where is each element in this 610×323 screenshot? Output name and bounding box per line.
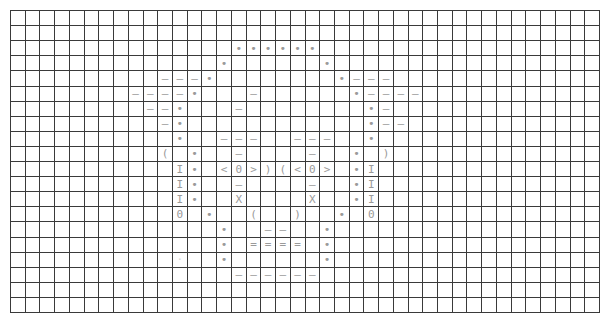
grid-cell [555, 161, 570, 176]
grid-cell [437, 40, 452, 55]
grid-cell [408, 10, 423, 25]
grid-glyph: — [231, 176, 246, 191]
grid-cell [378, 297, 393, 312]
grid-glyph: • [349, 176, 364, 191]
grid-glyph: · [172, 252, 187, 267]
grid-cell [246, 282, 261, 297]
grid-glyph: — [246, 86, 261, 101]
grid-cell [84, 237, 99, 252]
grid-cell [525, 237, 540, 252]
grid-cell [113, 86, 128, 101]
grid-cell [378, 221, 393, 236]
grid-cell [305, 10, 320, 25]
grid-cell [452, 176, 467, 191]
grid-cell [393, 191, 408, 206]
grid-cell [363, 237, 378, 252]
grid-cell [540, 252, 555, 267]
grid-cell [39, 101, 54, 116]
grid-cell [540, 282, 555, 297]
grid-cell [98, 55, 113, 70]
grid-cell [570, 237, 585, 252]
grid-cell [275, 55, 290, 70]
grid-cell [378, 282, 393, 297]
grid-cell [39, 221, 54, 236]
grid-cell [422, 252, 437, 267]
grid-cell [496, 252, 511, 267]
grid-cell [246, 70, 261, 85]
grid-cell [334, 10, 349, 25]
grid-cell [98, 10, 113, 25]
grid-cell [290, 221, 305, 236]
grid-cell [437, 297, 452, 312]
grid-cell [290, 10, 305, 25]
grid-glyph: — [378, 116, 393, 131]
grid-cell [157, 10, 172, 25]
grid-glyph: — [275, 267, 290, 282]
grid-cell [349, 101, 364, 116]
grid-cell [113, 252, 128, 267]
grid-cell [466, 252, 481, 267]
grid-glyph: ( [275, 161, 290, 176]
grid-cell [511, 131, 526, 146]
grid-cell [98, 191, 113, 206]
grid-cell [275, 10, 290, 25]
grid-cell [231, 206, 246, 221]
grid-cell [54, 70, 69, 85]
grid-cell [290, 252, 305, 267]
grid-cell [496, 25, 511, 40]
grid-cell [378, 191, 393, 206]
grid-cell [466, 55, 481, 70]
grid-cell [319, 25, 334, 40]
grid-cell [54, 161, 69, 176]
grid-cell [511, 252, 526, 267]
grid-cell [422, 282, 437, 297]
grid-cell [422, 116, 437, 131]
grid-cell [113, 116, 128, 131]
grid-cell [10, 116, 25, 131]
grid-cell [437, 252, 452, 267]
grid-cell [275, 101, 290, 116]
grid-cell [201, 10, 216, 25]
grid-cell [540, 176, 555, 191]
grid-cell [584, 161, 599, 176]
grid-cell [98, 221, 113, 236]
grid-glyph: > [246, 161, 261, 176]
grid-cell [39, 70, 54, 85]
grid-cell [378, 267, 393, 282]
grid-cell [113, 206, 128, 221]
grid-cell [275, 191, 290, 206]
grid-cell [437, 101, 452, 116]
grid-cell [466, 101, 481, 116]
grid-cell [481, 131, 496, 146]
grid-cell [54, 40, 69, 55]
grid-cell [570, 101, 585, 116]
grid-cell [69, 176, 84, 191]
grid-cell [98, 101, 113, 116]
grid-cell [39, 297, 54, 312]
grid-cell [378, 161, 393, 176]
grid-glyph: • [201, 70, 216, 85]
grid-glyph: • [319, 221, 334, 236]
grid-cell [349, 25, 364, 40]
grid-cell [408, 206, 423, 221]
grid-glyph: — [378, 86, 393, 101]
grid-cell [290, 55, 305, 70]
grid-cell [584, 282, 599, 297]
grid-cell [305, 297, 320, 312]
grid-cell [393, 237, 408, 252]
grid-cell [69, 40, 84, 55]
grid-cell [290, 146, 305, 161]
grid-cell [511, 116, 526, 131]
grid-cell [290, 282, 305, 297]
grid-cell [363, 10, 378, 25]
grid-cell [113, 282, 128, 297]
grid-cell [10, 297, 25, 312]
grid-cell [496, 191, 511, 206]
grid-glyph: 0 [305, 161, 320, 176]
grid-cell [349, 55, 364, 70]
grid-cell [54, 146, 69, 161]
grid-cell [452, 206, 467, 221]
grid-cell [187, 116, 202, 131]
grid-cell [496, 10, 511, 25]
grid-cell [113, 40, 128, 55]
